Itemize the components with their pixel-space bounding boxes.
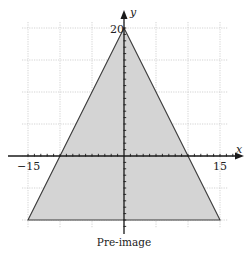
x-tick-label-15: 15: [213, 160, 227, 173]
caption: Pre-image: [0, 236, 248, 248]
x-tick-label-neg15: −15: [17, 160, 40, 173]
y-axis-arrow-icon: [121, 10, 128, 19]
y-axis-label: y: [129, 6, 137, 19]
y-tick-label-20: 20: [110, 23, 124, 36]
coordinate-plane: x y −15 15 20: [0, 0, 248, 253]
x-axis-label: x: [236, 143, 243, 156]
